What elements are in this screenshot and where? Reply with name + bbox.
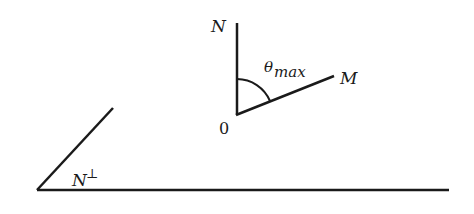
angle-diagram: N M 0 θ max N ⊥ [0, 0, 474, 214]
label-n: N [210, 16, 227, 36]
label-m: M [339, 68, 358, 88]
label-theta: θ [264, 58, 273, 76]
label-theta-subscript: max [274, 63, 306, 81]
label-perp-superscript: ⊥ [86, 166, 98, 181]
theta-max-arc [237, 79, 270, 101]
label-origin: 0 [219, 119, 229, 138]
